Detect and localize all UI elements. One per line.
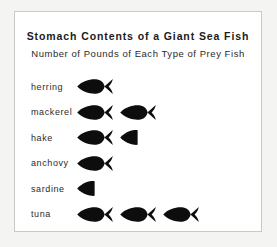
pictograph-row: herring: [15, 74, 261, 100]
pictograph-card: Stomach Contents of a Giant Sea Fish Num…: [14, 11, 262, 232]
fish-icon: [76, 104, 114, 121]
fish-icon: [76, 206, 114, 223]
symbol-track: [75, 100, 261, 126]
fish-icon: [119, 206, 157, 223]
row-label-sardine: sardine: [15, 184, 75, 194]
row-label-anchovy: anchovy: [15, 158, 75, 168]
pictograph-row: sardine: [15, 176, 261, 202]
chart-title: Stomach Contents of a Giant Sea Fish: [15, 30, 261, 42]
row-label-hake: hake: [15, 133, 75, 143]
fish-icon: [76, 78, 114, 95]
fish-icon: [76, 155, 114, 172]
pictograph-row: anchovy: [15, 151, 261, 177]
pictograph-row: hake: [15, 125, 261, 151]
half-fish-icon: [76, 180, 95, 197]
pictograph-plot-area: herringmackerelhakeanchovysardinetuna: [15, 74, 261, 227]
fish-icon: [76, 129, 114, 146]
symbol-track: [75, 125, 261, 151]
symbol-track: [75, 202, 261, 228]
symbol-track: [75, 176, 261, 202]
fish-icon: [119, 104, 157, 121]
row-label-herring: herring: [15, 82, 75, 92]
symbol-track: [75, 74, 261, 100]
fish-icon: [162, 206, 200, 223]
chart-subtitle: Number of Pounds of Each Type of Prey Fi…: [15, 48, 261, 59]
row-label-tuna: tuna: [15, 209, 75, 219]
pictograph-row: tuna: [15, 202, 261, 228]
row-label-mackerel: mackerel: [15, 107, 75, 117]
symbol-track: [75, 151, 261, 177]
half-fish-icon: [119, 129, 138, 146]
pictograph-row: mackerel: [15, 100, 261, 126]
